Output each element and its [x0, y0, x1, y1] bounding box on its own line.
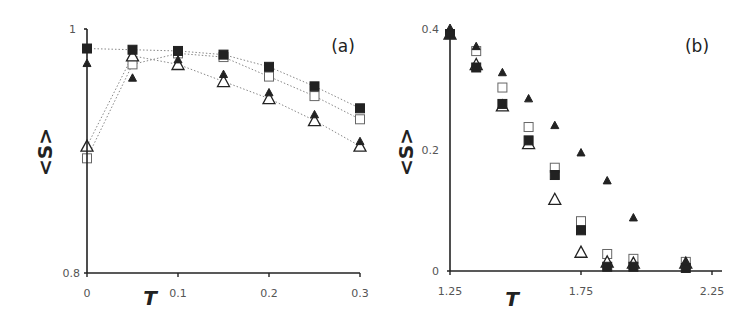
- chart-panel-b: 1.251.752.25 0 0.2 0.4 <S> T (b): [394, 23, 724, 311]
- data-point-square-open: [524, 123, 533, 132]
- series-markers: [81, 44, 366, 163]
- figure: 00.10.20.3 0.8 1 <S> T (a) 1.251.752.25 …: [0, 0, 755, 330]
- data-point-square-filled: [524, 136, 533, 145]
- y-axis-title: <S>: [33, 128, 57, 176]
- x-ticks: 1.251.752.25: [438, 271, 725, 298]
- data-point-square-open: [577, 217, 586, 226]
- x-tick-label: 2.25: [700, 285, 725, 298]
- data-point-square-filled: [128, 45, 137, 54]
- data-point-triangle-filled: [498, 68, 506, 75]
- data-point-square-filled: [174, 46, 183, 55]
- data-point-triangle-filled: [629, 214, 637, 221]
- data-point-triangle-filled: [551, 121, 559, 128]
- data-point-triangle-open: [575, 246, 587, 257]
- x-tick-label: 0: [84, 287, 91, 300]
- data-point-square-filled: [577, 226, 586, 235]
- data-point-square-open: [310, 92, 319, 101]
- data-point-triangle-filled: [472, 42, 480, 49]
- data-point-triangle-filled: [311, 110, 319, 117]
- data-point-triangle-filled: [577, 149, 585, 156]
- chart-panel-a: 00.10.20.3 0.8 1 <S> T (a): [33, 23, 369, 310]
- y-tick-label: 0.4: [422, 23, 440, 36]
- y-tick-label: 0.2: [422, 144, 440, 157]
- x-axis-title: T: [143, 286, 158, 310]
- data-point-square-filled: [356, 104, 365, 113]
- data-point-triangle-filled: [525, 94, 533, 101]
- data-point-square-filled: [310, 82, 319, 91]
- x-tick-label: 0.1: [169, 287, 187, 300]
- y-tick-label: 1: [69, 23, 76, 36]
- data-point-triangle-filled: [603, 176, 611, 183]
- data-point-triangle-filled: [220, 70, 228, 77]
- data-point-square-filled: [498, 99, 507, 108]
- data-point-square-filled: [603, 262, 612, 271]
- y-axis-title: <S>: [394, 128, 418, 176]
- series-markers: [444, 24, 692, 272]
- x-ticks: 00.10.20.3: [84, 273, 369, 300]
- data-point-triangle-filled: [356, 137, 364, 144]
- data-point-square-filled: [265, 62, 274, 71]
- x-tick-label: 0.2: [260, 287, 278, 300]
- data-point-square-filled: [219, 50, 228, 59]
- data-point-square-filled: [472, 63, 481, 72]
- data-point-square-filled: [550, 171, 559, 180]
- data-point-triangle-filled: [129, 74, 137, 81]
- data-point-triangle-open: [549, 193, 561, 204]
- data-point-square-open: [356, 115, 365, 124]
- data-point-triangle-filled: [265, 88, 273, 95]
- data-point-square-open: [265, 72, 274, 81]
- data-point-square-filled: [629, 262, 638, 271]
- x-tick-label: 1.25: [438, 285, 463, 298]
- x-axis-title: T: [505, 287, 520, 311]
- y-tick-label: 0: [432, 265, 439, 278]
- x-tick-label: 1.75: [569, 285, 594, 298]
- panel-label-a: (a): [331, 36, 355, 56]
- data-point-square-open: [498, 83, 507, 92]
- x-tick-label: 0.3: [351, 287, 369, 300]
- y-tick-label: 0.8: [63, 267, 81, 280]
- panel-label-b: (b): [685, 36, 709, 56]
